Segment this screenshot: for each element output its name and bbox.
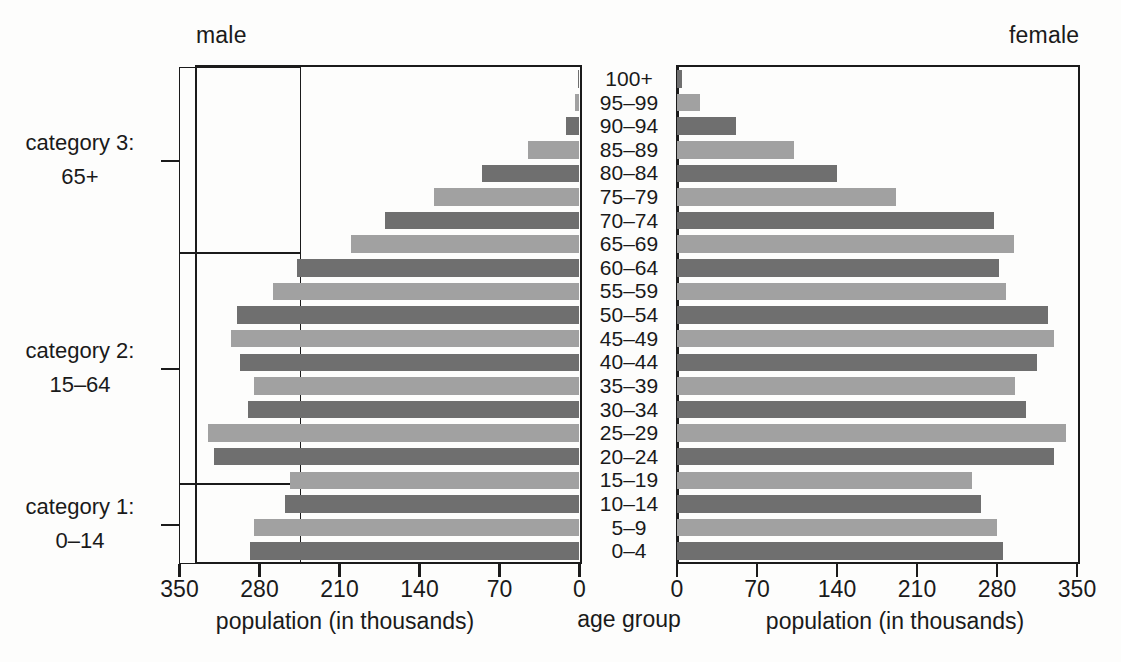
- age-group-label: 10–14: [582, 492, 676, 516]
- axis-tick-label: 350: [1058, 576, 1096, 603]
- axis-tick-label: 280: [240, 576, 278, 603]
- bar-row: 90–94: [0, 114, 1121, 138]
- bar-female-25–29: [677, 424, 1066, 442]
- bar-female-15–19: [677, 472, 972, 490]
- bar-female-85–89: [677, 141, 794, 159]
- male-header-label: male: [196, 22, 247, 49]
- bar-row: 20–24: [0, 445, 1121, 469]
- axis-tick-label: 350: [160, 576, 198, 603]
- bar-female-95–99: [677, 94, 700, 112]
- bar-male-70–74: [385, 212, 579, 230]
- bar-male-100+: [578, 70, 579, 88]
- bar-row: 80–84: [0, 161, 1121, 185]
- bar-row: 5–9: [0, 516, 1121, 540]
- age-group-label: 20–24: [582, 445, 676, 469]
- age-group-label: 5–9: [582, 516, 676, 540]
- bar-male-85–89: [528, 141, 579, 159]
- age-group-label: 65–69: [582, 232, 676, 256]
- bar-male-0–4: [250, 542, 579, 560]
- right-axis-title: population (in thousands): [766, 608, 1024, 635]
- age-group-label: 100+: [582, 67, 676, 91]
- bar-row: 55–59: [0, 279, 1121, 303]
- bar-female-0–4: [677, 542, 1003, 560]
- axis-tick-label: 0: [671, 576, 684, 603]
- bar-male-75–79: [434, 188, 579, 206]
- bar-female-45–49: [677, 330, 1054, 348]
- bar-female-20–24: [677, 448, 1054, 466]
- bar-female-90–94: [677, 117, 736, 135]
- bar-male-90–94: [566, 117, 580, 135]
- age-group-label: 70–74: [582, 209, 676, 233]
- bar-female-100+: [677, 70, 682, 88]
- age-group-label: 15–19: [582, 468, 676, 492]
- bar-row: 10–14: [0, 492, 1121, 516]
- bar-male-5–9: [254, 519, 580, 537]
- bar-male-60–64: [297, 259, 579, 277]
- age-group-label: 90–94: [582, 114, 676, 138]
- axis-tick-label: 140: [818, 576, 856, 603]
- bar-male-50–54: [237, 306, 580, 324]
- bar-row: 25–29: [0, 421, 1121, 445]
- bar-row: 0–4: [0, 539, 1121, 563]
- bar-male-15–19: [290, 472, 579, 490]
- bar-row: 60–64: [0, 256, 1121, 280]
- age-group-label: 35–39: [582, 374, 676, 398]
- axis-tick-label: 0: [573, 576, 586, 603]
- age-group-label: 30–34: [582, 398, 676, 422]
- bar-male-95–99: [575, 94, 580, 112]
- bar-female-75–79: [677, 188, 896, 206]
- bar-male-35–39: [254, 377, 580, 395]
- bar-row: 100+: [0, 67, 1121, 91]
- bar-female-80–84: [677, 165, 837, 183]
- axis-tick-label: 70: [744, 576, 770, 603]
- bar-female-65–69: [677, 235, 1014, 253]
- bar-male-10–14: [285, 495, 580, 513]
- bar-male-65–69: [351, 235, 580, 253]
- bar-female-40–44: [677, 354, 1037, 372]
- bar-row: 70–74: [0, 209, 1121, 233]
- bar-female-10–14: [677, 495, 981, 513]
- age-group-label: 80–84: [582, 161, 676, 185]
- bar-row: 65–69: [0, 232, 1121, 256]
- age-group-label: 25–29: [582, 421, 676, 445]
- age-group-label: 50–54: [582, 303, 676, 327]
- bar-male-80–84: [482, 165, 579, 183]
- center-axis-title: age group: [577, 606, 681, 633]
- bar-row: 95–99: [0, 91, 1121, 115]
- bar-row: 35–39: [0, 374, 1121, 398]
- axis-tick-label: 70: [487, 576, 513, 603]
- age-group-label: 60–64: [582, 256, 676, 280]
- bar-female-70–74: [677, 212, 994, 230]
- age-group-label: 55–59: [582, 279, 676, 303]
- bar-male-25–29: [208, 424, 579, 442]
- age-group-label: 40–44: [582, 350, 676, 374]
- age-group-label: 45–49: [582, 327, 676, 351]
- left-axis-title: population (in thousands): [216, 608, 474, 635]
- bar-female-5–9: [677, 519, 997, 537]
- bar-female-30–34: [677, 401, 1026, 419]
- axis-tick-label: 210: [898, 576, 936, 603]
- bar-female-35–39: [677, 377, 1015, 395]
- female-header-label: female: [1009, 22, 1079, 49]
- bar-female-60–64: [677, 259, 999, 277]
- bar-row: 75–79: [0, 185, 1121, 209]
- axis-tick-label: 210: [320, 576, 358, 603]
- bar-rows: 100+95–9990–9485–8980–8475–7970–7465–696…: [0, 67, 1121, 563]
- bar-female-55–59: [677, 283, 1006, 301]
- bar-male-30–34: [248, 401, 579, 419]
- bar-male-40–44: [240, 354, 579, 372]
- bar-male-55–59: [273, 283, 579, 301]
- bar-row: 15–19: [0, 468, 1121, 492]
- bar-row: 45–49: [0, 327, 1121, 351]
- age-group-label: 85–89: [582, 138, 676, 162]
- age-group-label: 75–79: [582, 185, 676, 209]
- bar-male-45–49: [231, 330, 580, 348]
- bar-female-50–54: [677, 306, 1048, 324]
- age-group-label: 95–99: [582, 91, 676, 115]
- bar-row: 50–54: [0, 303, 1121, 327]
- axis-tick-label: 280: [978, 576, 1016, 603]
- axis-tick-label: 140: [400, 576, 438, 603]
- bar-row: 40–44: [0, 350, 1121, 374]
- age-group-label: 0–4: [582, 539, 676, 563]
- population-pyramid-figure: male female category 3: 65+ category 2: …: [0, 0, 1121, 662]
